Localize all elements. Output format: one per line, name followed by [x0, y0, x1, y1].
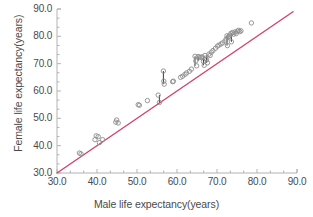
chart-container: Female life expectancy(years) Male life … — [0, 0, 313, 217]
data-points — [77, 21, 253, 156]
regression-line — [57, 12, 293, 173]
plot-area — [0, 0, 313, 217]
